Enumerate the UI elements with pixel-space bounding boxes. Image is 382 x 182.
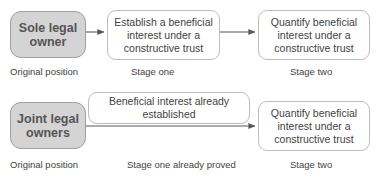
caption-stage-two-top: Stage two [290,66,332,78]
caption-stage-one-already-proved: Stage one already proved [127,159,236,171]
caption-original-position-top: Original position [10,66,78,78]
flow-diagram: Sole legal owner Establish a beneficial … [0,0,382,182]
node-beneficial-interest-already-established: Beneficial interest already established [88,92,250,124]
node-establish-beneficial-interest-label: Establish a beneficial interest under a … [108,16,219,55]
caption-original-position-bottom: Original position [10,159,78,171]
node-sole-legal-owner-label: Sole legal owner [11,21,85,49]
node-quantify-beneficial-interest-bottom: Quantify beneficial interest under a con… [258,101,370,151]
node-sole-legal-owner: Sole legal owner [10,11,86,58]
node-quantify-beneficial-interest-bottom-label: Quantify beneficial interest under a con… [259,107,369,146]
caption-stage-one: Stage one [131,66,174,78]
caption-stage-two-bottom: Stage two [290,159,332,171]
node-quantify-beneficial-interest-top: Quantify beneficial interest under a con… [258,10,370,60]
node-joint-legal-owners: Joint legal owners [10,102,86,149]
node-beneficial-interest-already-established-label: Beneficial interest already established [89,95,249,121]
node-joint-legal-owners-label: Joint legal owners [11,112,85,140]
node-quantify-beneficial-interest-top-label: Quantify beneficial interest under a con… [259,16,369,55]
node-establish-beneficial-interest: Establish a beneficial interest under a … [107,10,220,60]
